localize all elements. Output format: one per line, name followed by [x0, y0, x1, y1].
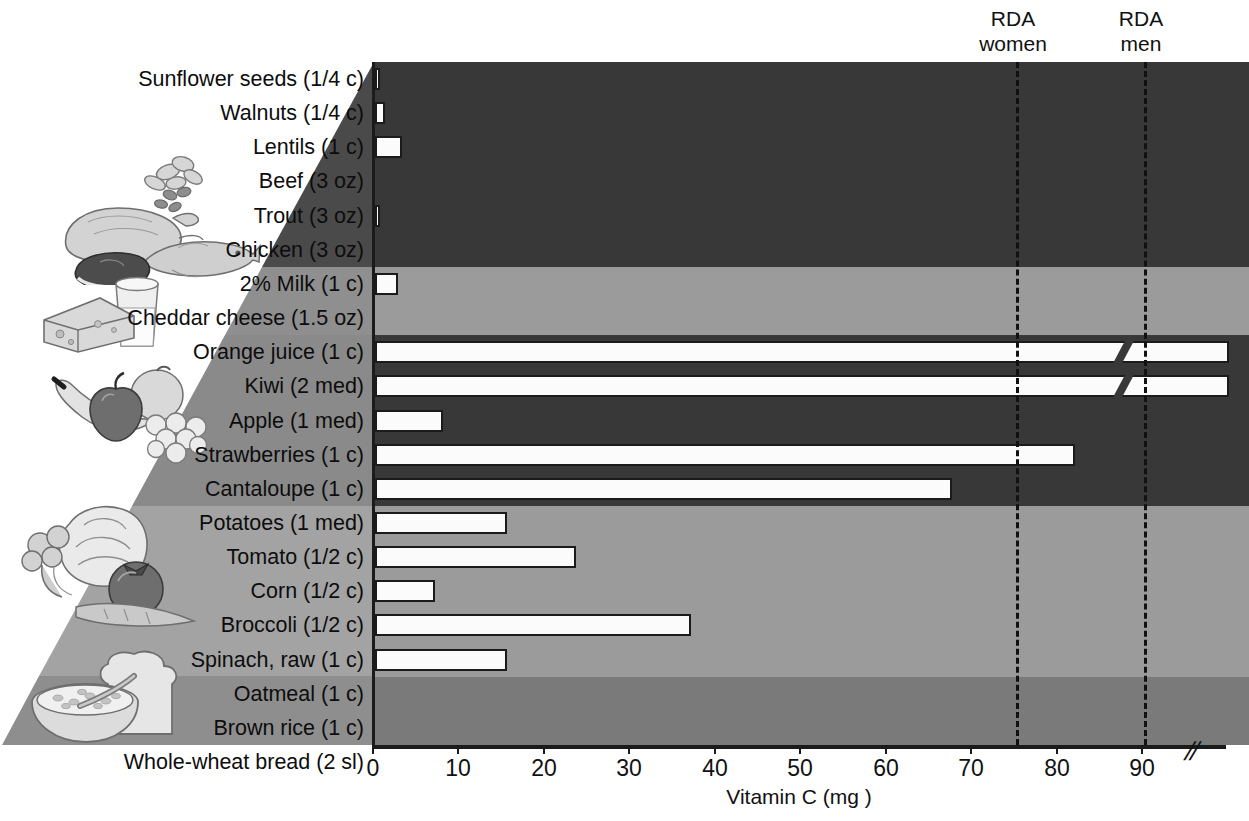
bar-walnuts [375, 102, 385, 124]
category-label-spinach: Spinach, raw (1 c) [191, 643, 364, 677]
bar-row-lentils [375, 130, 1229, 164]
rda-women-label-line1: RDA [953, 6, 1073, 31]
rda-men-label: RDA men [1081, 6, 1201, 56]
category-label-broccoli: Broccoli (1/2 c) [221, 608, 364, 642]
category-label-walnuts: Walnuts (1/4 c) [220, 96, 364, 130]
category-label-strawberries: Strawberries (1 c) [194, 438, 364, 472]
x-tick-20 [543, 745, 545, 754]
x-tick-0 [372, 745, 374, 754]
bar-row-sunflower-seeds [375, 62, 1229, 96]
rda-men-label-line1: RDA [1081, 6, 1201, 31]
x-tick-label-0: 0 [343, 755, 403, 782]
x-tick-70 [970, 745, 972, 754]
bar-row-brown-rice [375, 711, 1229, 745]
bar-row-strawberries [375, 438, 1229, 472]
bar-tomato [375, 546, 576, 568]
rda-men-label-line2: men [1081, 31, 1201, 56]
bar-row-apple [375, 404, 1229, 438]
bar-strawberries [375, 444, 1075, 466]
category-label-chicken: Chicken (3 oz) [225, 233, 364, 267]
rda-women-label: RDA women [953, 6, 1073, 56]
bar-row-potatoes [375, 506, 1229, 540]
bar-apple [375, 410, 443, 432]
category-label-lentils: Lentils (1 c) [253, 130, 364, 164]
rda-women-label-line2: women [953, 31, 1073, 56]
x-tick-label-80: 80 [1027, 755, 1087, 782]
category-label-beef: Beef (3 oz) [259, 164, 364, 198]
bar-lentils [375, 136, 402, 158]
category-label-corn: Corn (1/2 c) [250, 574, 364, 608]
category-label-oatmeal: Oatmeal (1 c) [234, 677, 364, 711]
bar-row-kiwi [375, 369, 1229, 403]
category-label-cheddar-cheese: Cheddar cheese (1.5 oz) [127, 301, 364, 335]
bar-row-corn [375, 574, 1229, 608]
bar-row-milk [375, 267, 1229, 301]
x-tick-80 [1056, 745, 1058, 754]
bar-row-beef [375, 164, 1229, 198]
plot-area [372, 62, 1229, 745]
rda-men-line [1144, 62, 1147, 745]
category-label-orange-juice: Orange juice (1 c) [193, 335, 364, 369]
category-label-brown-rice: Brown rice (1 c) [213, 711, 364, 745]
bar-broccoli [375, 614, 691, 636]
category-label-tomato: Tomato (1/2 c) [227, 540, 364, 574]
x-tick-label-70: 70 [941, 755, 1001, 782]
category-label-sunflower-seeds: Sunflower seeds (1/4 c) [138, 62, 364, 96]
category-label-kiwi: Kiwi (2 med) [245, 369, 364, 403]
x-tick-50 [799, 745, 801, 754]
x-tick-label-90: 90 [1112, 755, 1172, 782]
x-tick-label-20: 20 [514, 755, 574, 782]
bar-milk [375, 273, 398, 295]
bar-row-chicken [375, 233, 1229, 267]
category-label-potatoes: Potatoes (1 med) [199, 506, 364, 540]
bar-row-spinach [375, 643, 1229, 677]
x-tick-40 [714, 745, 716, 754]
x-tick-60 [885, 745, 887, 754]
x-tick-label-30: 30 [599, 755, 659, 782]
x-tick-label-50: 50 [770, 755, 830, 782]
bar-sunflower-seeds [375, 68, 380, 90]
bar-cantaloupe [375, 478, 952, 500]
x-tick-10 [457, 745, 459, 754]
bar-row-cheddar-cheese [375, 301, 1229, 335]
category-label-trout: Trout (3 oz) [254, 199, 364, 233]
rda-women-line [1016, 62, 1019, 745]
category-label-apple: Apple (1 med) [229, 404, 364, 438]
bar-row-orange-juice [375, 335, 1229, 369]
x-tick-label-60: 60 [856, 755, 916, 782]
bar-row-trout [375, 199, 1229, 233]
bar-row-walnuts [375, 96, 1229, 130]
bar-trout [375, 205, 380, 227]
x-tick-label-10: 10 [428, 755, 488, 782]
category-label-milk: 2% Milk (1 c) [240, 267, 364, 301]
x-tick-label-40: 40 [685, 755, 745, 782]
category-label-cantaloupe: Cantaloupe (1 c) [205, 472, 364, 506]
x-axis-title: Vitamin C (mg ) [372, 785, 1226, 809]
bar-row-broccoli [375, 608, 1229, 642]
bar-spinach [375, 649, 507, 671]
bar-potatoes [375, 512, 507, 534]
category-label-whole-wheat-bread: Whole-wheat bread (2 sl) [124, 745, 364, 779]
x-tick-30 [628, 745, 630, 754]
bar-kiwi [375, 375, 1229, 397]
bar-row-oatmeal [375, 677, 1229, 711]
bar-row-tomato [375, 540, 1229, 574]
bar-orange-juice [375, 341, 1229, 363]
bar-corn [375, 580, 435, 602]
bar-row-cantaloupe [375, 472, 1229, 506]
x-tick-90 [1141, 745, 1143, 754]
category-label-column: Sunflower seeds (1/4 c) Walnuts (1/4 c) … [0, 62, 372, 745]
